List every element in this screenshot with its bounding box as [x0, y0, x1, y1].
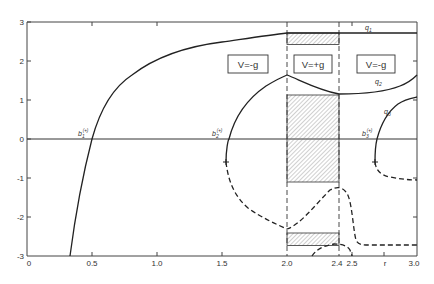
region-right-text: V=-g: [366, 59, 386, 70]
y-tick-3: 3: [20, 18, 25, 27]
label-q1: q1: [365, 24, 372, 33]
x-tick-1.0: 1.0: [151, 259, 163, 268]
x-tick-2.5: 2.5: [346, 259, 358, 268]
y-tick-m3: -3: [17, 252, 25, 261]
curve-q3-continuation: [375, 162, 417, 180]
y-ticks: [27, 22, 417, 217]
chart: 3 2 1 0 -1 -2 -3 0 0.5 1.0 1.5 2.0 2.4 2…: [0, 0, 434, 284]
label-b3: b3(+): [362, 128, 373, 139]
region-label-middle: V=+g: [294, 55, 332, 73]
x-tick-3.0: 3.0: [408, 259, 420, 268]
y-tick-labels: 3 2 1 0 -1 -2 -3: [17, 18, 25, 261]
region-label-left: V=-g: [228, 55, 268, 73]
y-tick-1: 1: [20, 96, 25, 105]
y-tick-2: 2: [20, 57, 25, 66]
region-label-right: V=-g: [357, 55, 395, 73]
y-tick-m2: -2: [17, 213, 25, 222]
region-mid-text: V=+g: [302, 59, 325, 70]
y-tick-0: 0: [20, 135, 25, 144]
hatched-band-top: [287, 33, 339, 45]
label-b1: b1(+): [78, 128, 89, 139]
y-tick-m1: -1: [17, 174, 25, 183]
label-b2: b2(+): [212, 128, 223, 139]
curve-labels: q1 q2 q3 b1(+) b2(+) b3(+): [78, 24, 391, 139]
x-tick-labels: 0 0.5 1.0 1.5 2.0 2.4 2.5 r 3.0: [27, 259, 420, 268]
x-axis-label: r: [384, 259, 387, 268]
curve-q3: [375, 97, 417, 162]
hatched-band-bottom: [287, 233, 339, 246]
x-tick-0: 0: [27, 259, 32, 268]
x-tick-0.5: 0.5: [86, 259, 98, 268]
x-tick-2.4: 2.4: [331, 259, 343, 268]
label-q2: q2: [375, 78, 382, 87]
label-q3: q3: [384, 108, 391, 117]
x-tick-2.0: 2.0: [281, 259, 293, 268]
x-tick-1.5: 1.5: [216, 259, 228, 268]
region-left-text: V=-g: [238, 59, 258, 70]
hatched-band-middle: [287, 95, 339, 182]
